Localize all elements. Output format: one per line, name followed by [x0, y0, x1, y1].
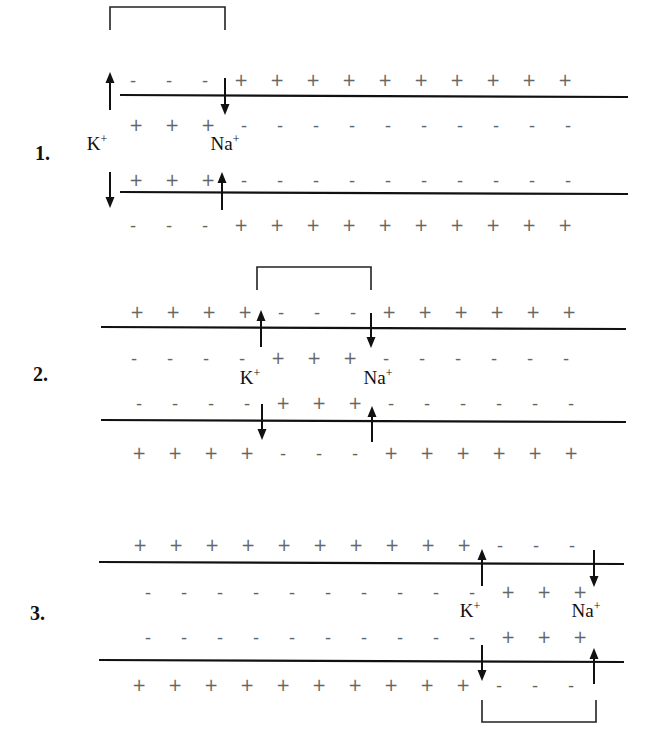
positive-charge: +: [456, 675, 470, 695]
positive-charge: +: [165, 170, 179, 190]
positive-charge: +: [382, 302, 396, 322]
negative-charge: -: [145, 582, 151, 602]
negative-charge: -: [527, 348, 533, 368]
positive-charge: +: [378, 70, 392, 90]
positive-charge: +: [486, 215, 500, 235]
negative-charge: -: [529, 170, 535, 190]
arrow-up-icon: [218, 172, 227, 210]
negative-charge: -: [145, 627, 151, 647]
negative-charge: -: [361, 582, 367, 602]
positive-charge: +: [384, 443, 398, 463]
negative-charge: -: [239, 348, 245, 368]
positive-charge: +: [129, 115, 143, 135]
charge-row-inner-top: ----------+++: [145, 582, 587, 602]
arrow-down-icon: [590, 550, 599, 587]
charge-row-outer-top: ++++---++++++: [130, 302, 576, 322]
positive-charge: +: [306, 215, 320, 235]
negative-charge: -: [208, 393, 214, 413]
negative-charge: -: [325, 582, 331, 602]
negative-charge: -: [493, 115, 499, 135]
arrow-down-icon: [258, 404, 267, 440]
negative-charge: -: [397, 627, 403, 647]
panel-number: 1.: [35, 142, 50, 164]
depolarization-bracket: [110, 7, 225, 30]
negative-charge: -: [568, 393, 574, 413]
negative-charge: -: [460, 393, 466, 413]
negative-charge: -: [469, 627, 475, 647]
positive-charge: +: [306, 70, 320, 90]
charge-row-inner-top: +++----------: [129, 115, 571, 135]
negative-charge: -: [529, 115, 535, 135]
negative-charge: -: [421, 115, 427, 135]
negative-charge: -: [217, 582, 223, 602]
membrane-top-line: [99, 562, 624, 564]
negative-charge: -: [313, 170, 319, 190]
negative-charge: -: [167, 348, 173, 368]
charge-row-inner-bottom: +++----------: [129, 170, 571, 190]
positive-charge: +: [166, 302, 180, 322]
negative-charge: -: [278, 302, 284, 322]
positive-charge: +: [420, 443, 434, 463]
membrane-bottom-line: [99, 660, 624, 662]
positive-charge: +: [348, 393, 362, 413]
sodium-ion-label: Na+: [211, 132, 240, 154]
positive-charge: +: [168, 443, 182, 463]
panel-2: 2.++++---++++++----+++----------+++-----…: [33, 267, 626, 463]
positive-charge: +: [450, 70, 464, 90]
positive-charge: +: [349, 535, 363, 555]
negative-charge: -: [497, 535, 503, 555]
charge-row-outer-bottom: ---++++++++++: [130, 215, 572, 235]
negative-charge: -: [202, 215, 208, 235]
negative-charge: -: [166, 70, 172, 90]
negative-charge: -: [433, 582, 439, 602]
negative-charge: -: [532, 675, 538, 695]
negative-charge: -: [569, 535, 575, 555]
positive-charge: +: [204, 443, 218, 463]
negative-charge: -: [244, 393, 250, 413]
negative-charge: -: [496, 393, 502, 413]
panel-number: 3.: [30, 602, 45, 624]
positive-charge: +: [456, 443, 470, 463]
negative-charge: -: [130, 215, 136, 235]
negative-charge: -: [388, 393, 394, 413]
positive-charge: +: [421, 535, 435, 555]
positive-charge: +: [342, 215, 356, 235]
negative-charge: -: [202, 70, 208, 90]
negative-charge: -: [424, 393, 430, 413]
potassium-ion-label: K+: [460, 599, 481, 621]
negative-charge: -: [136, 393, 142, 413]
negative-charge: -: [131, 348, 137, 368]
positive-charge: +: [486, 70, 500, 90]
negative-charge: -: [457, 170, 463, 190]
negative-charge: -: [533, 535, 539, 555]
positive-charge: +: [562, 302, 576, 322]
positive-charge: +: [202, 302, 216, 322]
negative-charge: -: [316, 443, 322, 463]
negative-charge: -: [496, 675, 502, 695]
positive-charge: +: [234, 70, 248, 90]
arrow-up-icon: [478, 549, 487, 586]
positive-charge: +: [169, 535, 183, 555]
negative-charge: -: [130, 70, 136, 90]
negative-charge: -: [383, 348, 389, 368]
positive-charge: +: [348, 675, 362, 695]
positive-charge: +: [343, 348, 357, 368]
negative-charge: -: [313, 115, 319, 135]
positive-charge: +: [276, 675, 290, 695]
positive-charge: +: [537, 627, 551, 647]
negative-charge: -: [491, 348, 497, 368]
charge-row-outer-top: ++++++++++---: [133, 535, 575, 555]
positive-charge: +: [558, 215, 572, 235]
negative-charge: -: [217, 627, 223, 647]
arrow-up-icon: [106, 72, 115, 110]
positive-charge: +: [313, 535, 327, 555]
panels-container: 1.---+++++++++++++----------+++---------…: [30, 7, 628, 722]
charge-row-inner-top: ----+++------: [131, 348, 569, 368]
negative-charge: -: [433, 627, 439, 647]
positive-charge: +: [201, 115, 215, 135]
negative-charge: -: [455, 348, 461, 368]
negative-charge: -: [289, 627, 295, 647]
positive-charge: +: [450, 215, 464, 235]
positive-charge: +: [573, 627, 587, 647]
positive-charge: +: [234, 215, 248, 235]
